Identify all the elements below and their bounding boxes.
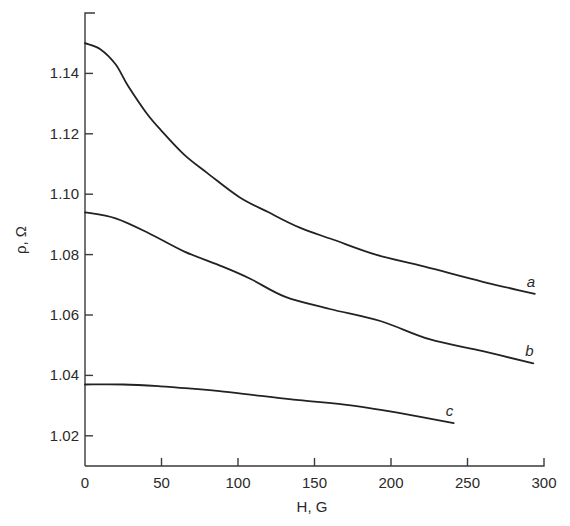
y-ticks: 1.021.041.061.081.101.121.14 bbox=[50, 64, 93, 443]
curve-b bbox=[85, 212, 533, 363]
x-tick-label: 300 bbox=[531, 474, 556, 491]
y-tick-label: 1.04 bbox=[50, 366, 79, 383]
curve-label-a: a bbox=[527, 273, 535, 290]
curve-c bbox=[85, 384, 454, 423]
y-tick-label: 1.14 bbox=[50, 64, 79, 81]
y-tick-label: 1.12 bbox=[50, 125, 79, 142]
curves bbox=[85, 43, 535, 423]
y-tick-label: 1.06 bbox=[50, 306, 79, 323]
curve-a bbox=[85, 43, 535, 294]
axes: 1.021.041.061.081.101.121.14 05010015020… bbox=[50, 13, 557, 491]
chart: 1.021.041.061.081.101.121.14 05010015020… bbox=[0, 0, 570, 526]
x-tick-label: 50 bbox=[153, 474, 170, 491]
curve-label-b: b bbox=[525, 342, 533, 359]
x-axis-title: H, G bbox=[297, 498, 328, 515]
curve-label-c: c bbox=[446, 402, 454, 419]
y-tick-label: 1.02 bbox=[50, 427, 79, 444]
y-axis-title: ρ, Ω bbox=[12, 226, 29, 254]
y-axis bbox=[85, 13, 95, 466]
x-tick-label: 100 bbox=[225, 474, 250, 491]
y-tick-label: 1.10 bbox=[50, 185, 79, 202]
x-tick-label: 150 bbox=[302, 474, 327, 491]
x-tick-label: 200 bbox=[378, 474, 403, 491]
x-tick-label: 250 bbox=[455, 474, 480, 491]
y-tick-label: 1.08 bbox=[50, 246, 79, 263]
x-ticks: 050100150200250300 bbox=[81, 458, 557, 491]
x-tick-label: 0 bbox=[81, 474, 89, 491]
